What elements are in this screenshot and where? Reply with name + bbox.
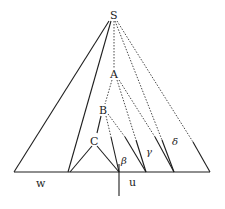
edge-b-u-dashed [106, 116, 111, 137]
substring-beta-label: β [120, 155, 127, 166]
edge-a-b [105, 80, 112, 104]
node-a-label: A [109, 68, 119, 81]
edge-b-c [97, 116, 101, 133]
substring-delta-label: δ [172, 136, 178, 147]
substring-u-label: u [129, 176, 136, 189]
edge-a-right1-dashed [117, 80, 136, 140]
derivation-tree-diagram: S A B C w u β γ δ [0, 0, 225, 209]
w-triangle-left-edge [14, 21, 109, 172]
node-s-label: S [110, 9, 118, 22]
edge-s-gamma-dashed [115, 21, 162, 140]
node-b-label: B [99, 104, 107, 117]
edge-s-delta-solid [193, 142, 210, 172]
substring-w-label: w [36, 177, 46, 190]
edge-a-right1-solid [136, 140, 146, 172]
substring-gamma-label: γ [146, 146, 152, 157]
node-c-label: C [90, 135, 98, 148]
edge-b-right-solid [125, 137, 146, 172]
c-triangle-left-edge [70, 146, 92, 172]
edge-s-delta-dashed [117, 21, 193, 142]
